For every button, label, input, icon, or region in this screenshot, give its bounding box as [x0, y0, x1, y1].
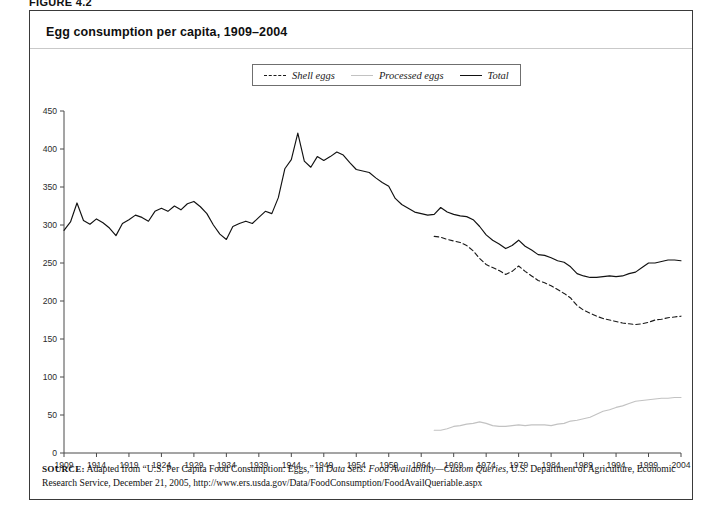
series-line-processed-eggs	[434, 398, 681, 431]
source-note: SOURCE: Adapted from “U.S. Per Capita Fo…	[42, 462, 680, 490]
y-axis-tick-label: 400	[43, 144, 58, 154]
y-axis-tick-label: 0	[52, 448, 57, 458]
source-text-italic: Data Sets: Food Availability—Custom Quer…	[326, 463, 506, 474]
series-line-shell-eggs	[434, 236, 681, 324]
figure-container: FIGURE 4.2 Egg consumption per capita, 1…	[0, 0, 707, 519]
source-text-a: Adapted from “U.S. Per Capita Food Consu…	[85, 463, 326, 474]
y-axis-tick-label: 300	[43, 220, 58, 230]
figure-label: FIGURE 4.2	[29, 0, 92, 8]
y-axis-tick-label: 100	[43, 372, 58, 382]
source-label: SOURCE:	[42, 464, 85, 474]
line-chart-plot: 0501001502002503003504004501909191419191…	[30, 11, 692, 471]
y-axis-tick-label: 200	[43, 296, 58, 306]
y-axis-tick-label: 350	[43, 182, 58, 192]
y-axis-tick-label: 450	[43, 106, 58, 116]
series-line-total	[64, 133, 681, 277]
y-axis-tick-label: 150	[43, 334, 58, 344]
y-axis-tick-label: 250	[43, 258, 58, 268]
figure-frame: Egg consumption per capita, 1909–2004 Sh…	[29, 10, 693, 500]
y-axis-tick-label: 50	[47, 410, 57, 420]
source-text-b: , U.S. Department of Agriculture,	[506, 463, 634, 474]
